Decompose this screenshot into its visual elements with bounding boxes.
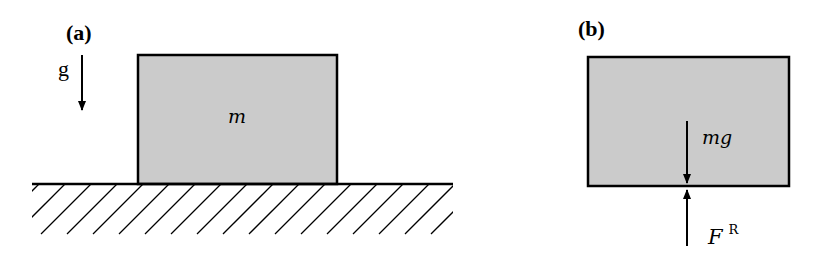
hatch-line <box>41 184 91 234</box>
hatch-line <box>327 184 377 234</box>
hatch-line <box>15 184 65 234</box>
hatch-line <box>197 184 247 234</box>
panel-b: (b) mg F R <box>578 16 789 249</box>
weight-label: mg <box>702 126 732 148</box>
reaction-force-superscript: R <box>729 222 740 237</box>
panel-a-label: (a) <box>66 20 92 45</box>
gravity-label: g <box>58 56 69 81</box>
ground-hatching <box>0 184 481 234</box>
mass-label: m <box>228 105 246 127</box>
hatch-line <box>379 184 429 234</box>
hatch-line <box>119 184 169 234</box>
hatch-line <box>353 184 403 234</box>
panel-b-label: (b) <box>578 16 605 41</box>
hatch-line <box>405 184 455 234</box>
hatch-line <box>67 184 117 234</box>
hatch-line <box>145 184 195 234</box>
hatch-line <box>249 184 299 234</box>
reaction-force-label: F R <box>707 222 740 249</box>
hatch-line <box>93 184 143 234</box>
hatch-line <box>223 184 273 234</box>
hatch-line <box>431 184 481 234</box>
hatch-line <box>0 184 39 234</box>
reaction-force-symbol: F <box>707 225 724 249</box>
panel-a: (a) g m <box>0 20 481 234</box>
free-body-diagram: (a) g m (b) mg F R <box>0 0 818 256</box>
hatch-line <box>171 184 221 234</box>
free-body-block <box>588 57 789 186</box>
hatch-line <box>301 184 351 234</box>
hatch-line <box>275 184 325 234</box>
